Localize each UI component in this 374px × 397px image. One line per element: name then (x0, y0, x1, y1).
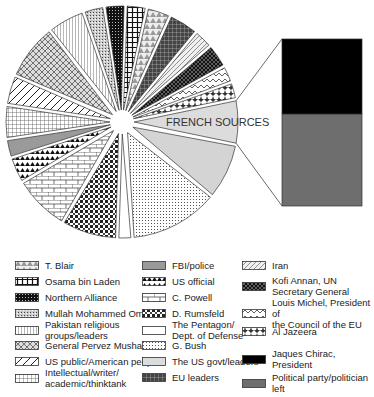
french-sources-label: FRENCH SOURCES (166, 116, 269, 128)
legend-swatch (15, 277, 39, 286)
legend-item: General Pervez Musharraf (15, 340, 156, 351)
legend-label: The Pentagon/ Dept. of Defense (172, 319, 243, 341)
legend-item: Osama bin Laden (15, 276, 120, 287)
legend-item: Kofi Annan, UN Secretary General (242, 275, 349, 297)
legend-label: EU leaders (172, 372, 219, 383)
legend-swatch (142, 341, 166, 350)
legend-label: Kofi Annan, UN Secretary General (272, 275, 349, 297)
legend-swatch (142, 277, 166, 286)
legend-swatch (242, 327, 266, 336)
legend-item: Political party/politician left (242, 372, 374, 394)
legend-swatch (15, 326, 39, 335)
legend-swatch (15, 374, 39, 383)
legend-item: FBI/police (142, 260, 214, 271)
legend-swatch (142, 293, 166, 302)
legend-swatch (15, 261, 39, 270)
connector-line (236, 143, 282, 206)
legend: T. BlairOsama bin LadenNorthern Alliance… (0, 254, 374, 397)
legend-label: Osama bin Laden (45, 276, 120, 287)
legend-item: Pakistan religious groups/leaders (15, 319, 119, 341)
legend-item: Intellectual/writer/ academic/thinktank (15, 367, 126, 389)
legend-swatch (242, 355, 266, 364)
legend-label: Pakistan religious groups/leaders (45, 319, 119, 341)
legend-item: G. Bush (142, 340, 206, 351)
legend-swatch (142, 261, 166, 270)
legend-label: Mullah Mohammed Omar (45, 308, 152, 319)
legend-label: Iran (272, 260, 288, 271)
legend-item: Jaques Chirac, President (242, 348, 374, 370)
legend-label: US official (172, 276, 215, 287)
legend-swatch (15, 309, 39, 318)
legend-item: Al Jazeera (242, 326, 317, 337)
legend-swatch (15, 357, 39, 366)
legend-item: US official (142, 276, 215, 287)
legend-label: Jaques Chirac, President (272, 348, 374, 370)
legend-label: General Pervez Musharraf (45, 340, 156, 351)
connector-line (236, 39, 282, 101)
legend-label: Intellectual/writer/ academic/thinktank (45, 367, 126, 389)
legend-swatch (142, 326, 166, 335)
detail-bar-segment (282, 114, 362, 206)
pie-slices: FRENCH SOURCES (6, 6, 269, 238)
legend-label: C. Powell (172, 292, 212, 303)
legend-label: Northern Alliance (45, 292, 117, 303)
legend-label: T. Blair (45, 260, 74, 271)
legend-swatch (242, 282, 266, 291)
legend-item: The Pentagon/ Dept. of Defense (142, 319, 243, 341)
legend-swatch (242, 261, 266, 270)
legend-swatch (142, 373, 166, 382)
legend-item: Iran (242, 260, 288, 271)
detail-bar-segment (282, 39, 362, 114)
pie-chart: FRENCH SOURCES (0, 0, 374, 254)
legend-label: Political party/politician left (272, 372, 374, 394)
legend-swatch (142, 357, 166, 366)
legend-item: T. Blair (15, 260, 74, 271)
legend-swatch (242, 379, 266, 388)
legend-item: US public/American people (15, 356, 160, 367)
legend-item: EU leaders (142, 372, 219, 383)
legend-item: D. Rumsfeld (142, 308, 224, 319)
legend-label: Al Jazeera (272, 326, 317, 337)
legend-swatch (15, 293, 39, 302)
legend-item: Mullah Mohammed Omar (15, 308, 152, 319)
legend-item: C. Powell (142, 292, 212, 303)
legend-label: G. Bush (172, 340, 206, 351)
legend-swatch (242, 309, 266, 318)
legend-label: D. Rumsfeld (172, 308, 224, 319)
legend-item: Northern Alliance (15, 292, 117, 303)
legend-swatch (15, 341, 39, 350)
legend-swatch (142, 309, 166, 318)
legend-label: FBI/police (172, 260, 214, 271)
